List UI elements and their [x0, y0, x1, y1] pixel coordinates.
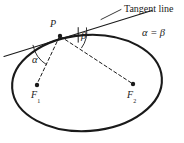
angle-alpha-label: α	[32, 55, 38, 66]
ellipse-tangent-figure: Tangent line α = β P α β F1 F2	[0, 0, 184, 143]
diagram-canvas	[0, 0, 184, 143]
ellipse-outline	[9, 30, 165, 136]
tangent-line-label: Tangent line	[124, 4, 174, 14]
alpha-equals-beta-label: α = β	[142, 28, 165, 39]
focus-1-marker	[35, 83, 39, 87]
focus-1-index: 1	[37, 98, 40, 104]
tangent-label-leader-line	[101, 10, 121, 20]
focus-2-marker	[131, 82, 135, 86]
point-p-label: P	[50, 19, 56, 29]
angle-beta-label: β	[81, 31, 86, 42]
ellipse-shape	[9, 30, 165, 136]
point-p-marker	[58, 34, 62, 38]
focus-2-index: 2	[133, 98, 136, 104]
segment-p-to-focus-2	[61, 37, 132, 84]
focus-1-label: F1	[31, 90, 40, 102]
focus-2-label: F2	[127, 90, 136, 102]
